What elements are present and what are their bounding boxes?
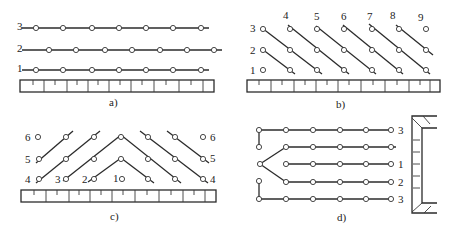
row-label-1: 1 — [17, 62, 23, 74]
bench-base-c — [21, 190, 216, 202]
right-label-6: 6 — [210, 131, 216, 143]
row-label-3: 3 — [250, 22, 256, 34]
left-label-5: 5 — [25, 153, 31, 165]
panel-d: 3 1 2 3 d) — [256, 116, 437, 224]
col-label-5: 5 — [314, 10, 320, 22]
left-label-4: 4 — [25, 173, 31, 185]
row-label-3: 3 — [17, 20, 23, 32]
blast-pattern-figure: 3 2 1 — [0, 0, 454, 236]
holes-b — [260, 26, 428, 72]
left-label-2: 2 — [82, 173, 88, 185]
panel-c: 6 5 4 3 2 1 6 5 4 — [21, 131, 216, 223]
row-label-2: 2 — [398, 176, 404, 188]
col-label-8: 8 — [390, 9, 396, 21]
row-label-3-bottom: 3 — [398, 193, 404, 205]
left-label-6: 6 — [25, 131, 31, 143]
row-label-2: 2 — [250, 44, 256, 56]
panel-caption-c: c) — [110, 210, 119, 223]
col-label-9: 9 — [418, 11, 424, 23]
col-label-6: 6 — [341, 10, 347, 22]
panel-caption-a: a) — [109, 96, 118, 109]
row-label-1: 1 — [250, 64, 256, 76]
right-label-4: 4 — [210, 173, 216, 185]
panel-caption-d: d) — [337, 211, 347, 224]
row-label-2: 2 — [17, 42, 23, 54]
bench-base-b — [247, 80, 440, 92]
center-label-1: 1 — [113, 172, 119, 184]
wall-structure — [412, 116, 437, 213]
col-label-7: 7 — [367, 10, 373, 22]
col-label-4: 4 — [283, 9, 289, 21]
right-label-5: 5 — [210, 152, 216, 164]
row-label-3-top: 3 — [398, 124, 404, 136]
panel-a: 3 2 1 — [17, 20, 222, 109]
panel-b: 3 2 1 4 5 6 7 8 9 — [247, 9, 440, 111]
row-label-1: 1 — [398, 158, 404, 170]
panel-caption-b: b) — [336, 98, 346, 111]
left-label-3: 3 — [55, 173, 61, 185]
bench-base-a — [20, 80, 214, 92]
row-lines-d — [259, 130, 396, 199]
